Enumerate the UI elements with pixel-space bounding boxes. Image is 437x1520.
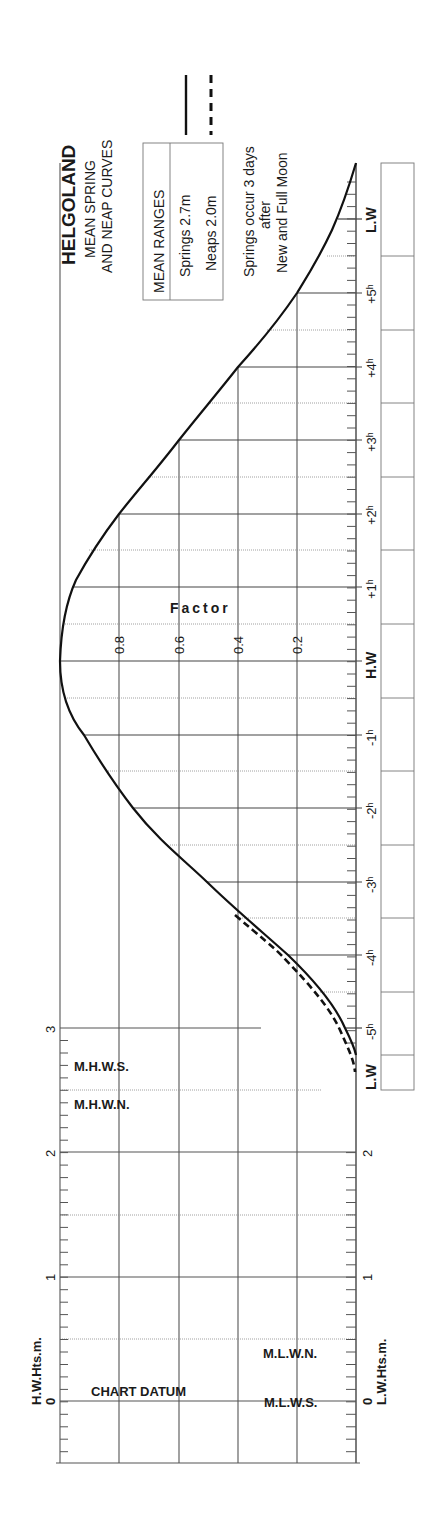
time-label-plus4: +4ʰ — [364, 358, 379, 378]
height-ticks-left — [60, 1041, 68, 1452]
hw-tick-3: 3 — [43, 1026, 58, 1033]
hw-tick-2: 2 — [43, 1150, 58, 1157]
time-label-minus2: -2ʰ — [364, 802, 379, 819]
time-label-minus4: -4ʰ — [364, 949, 379, 966]
time-ticks — [347, 182, 356, 1043]
lw-heights-label: L.W.Hts.m. — [374, 1339, 389, 1405]
hw-heights-label: H.W.Hts.m. — [29, 1337, 44, 1405]
factor-tick-0.4: 0.4 — [231, 636, 246, 654]
legend-springs: Springs 2.7m — [177, 195, 193, 277]
mhws-label: M.H.W.S. — [74, 1059, 129, 1074]
height-axis-labels: 3 2 1 0 H.W.Hts.m. 2 1 0 L.W.Hts.m. M.H.… — [29, 1026, 389, 1410]
time-label-lw-end: L.W — [363, 207, 379, 233]
time-label-lw-start: L.W — [363, 1064, 379, 1090]
neaps-curve — [235, 915, 355, 1072]
note-line2: after — [257, 201, 273, 229]
station-title: HELGOLAND — [58, 145, 79, 265]
lw-tick-1: 1 — [360, 1274, 375, 1281]
mlws-label: M.L.W.S. — [264, 1395, 317, 1410]
factor-axis: Factor 0.8 0.6 0.4 0.2 — [112, 600, 305, 654]
spring-timing-note: Springs occur 3 days after New and Full … — [241, 146, 290, 277]
legend-header: MEAN RANGES — [151, 190, 167, 293]
tidal-curve-diagram: HELGOLAND MEAN SPRING AND NEAP CURVES ME… — [0, 0, 437, 1520]
factor-tick-0.2: 0.2 — [290, 636, 305, 654]
time-label-plus5: +5ʰ — [364, 284, 379, 304]
chart-datum-label: CHART DATUM — [91, 1384, 186, 1399]
mlwn-label: M.L.W.N. — [263, 1346, 317, 1361]
mhwn-label: M.H.W.N. — [74, 1097, 130, 1112]
lw-tick-2: 2 — [360, 1150, 375, 1157]
factor-tick-0.8: 0.8 — [112, 636, 127, 654]
hw-tick-0: 0 — [43, 1398, 58, 1405]
time-strip-box — [381, 163, 414, 1090]
time-label-plus1: +1ʰ — [364, 579, 379, 599]
note-line3: New and Full Moon — [274, 152, 290, 273]
time-label-plus3: +3ʰ — [364, 432, 379, 452]
legend: MEAN RANGES Springs 2.7m Neaps 2.0m — [143, 75, 223, 300]
subtitle-line2: AND NEAP CURVES — [99, 140, 115, 273]
title-block: HELGOLAND MEAN SPRING AND NEAP CURVES — [58, 140, 115, 273]
note-line1: Springs occur 3 days — [241, 146, 257, 277]
time-label-plus2: +2ʰ — [364, 505, 379, 525]
time-axis-labels: L.W +5ʰ +4ʰ +3ʰ +2ʰ +1ʰ H.W -1ʰ -2ʰ -3ʰ … — [363, 207, 379, 1090]
legend-neaps: Neaps 2.0m — [203, 196, 219, 271]
factor-grid — [60, 163, 362, 1463]
time-label-minus3: -3ʰ — [364, 876, 379, 893]
time-label-minus5: -5ʰ — [364, 1023, 379, 1040]
factor-axis-label: Factor — [170, 600, 231, 616]
subtitle-line1: MEAN SPRING — [82, 160, 98, 258]
time-label-minus1: -1ʰ — [364, 729, 379, 746]
time-label-hw: H.W — [363, 651, 379, 679]
factor-tick-0.6: 0.6 — [172, 636, 187, 654]
hw-tick-1: 1 — [43, 1274, 58, 1281]
lw-tick-0: 0 — [360, 1398, 375, 1405]
height-ticks-right — [346, 1153, 356, 1452]
